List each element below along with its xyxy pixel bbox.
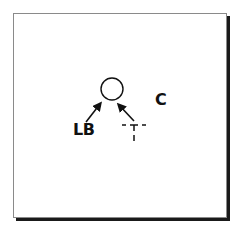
player-circle-icon bbox=[101, 78, 123, 100]
center-label: C bbox=[155, 92, 167, 108]
play-diagram-canvas bbox=[0, 0, 241, 231]
t-marker-icon bbox=[122, 125, 146, 141]
linebacker-label: LB bbox=[73, 122, 94, 138]
t-arrow-icon bbox=[119, 105, 134, 121]
